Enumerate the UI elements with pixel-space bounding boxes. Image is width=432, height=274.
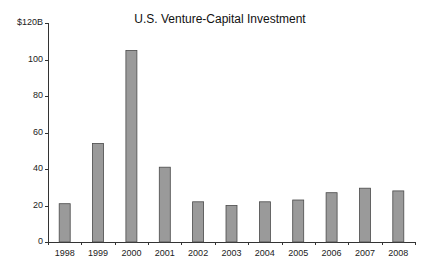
bar-2003 bbox=[226, 206, 237, 243]
bar-2000 bbox=[126, 50, 137, 242]
y-tick-label: 60 bbox=[3, 127, 43, 137]
bar-chart: U.S. Venture-Capital Investment 02040608… bbox=[0, 0, 432, 274]
x-tick-label: 2000 bbox=[114, 248, 148, 258]
y-tick-label: 20 bbox=[3, 200, 43, 210]
x-tick-label: 2008 bbox=[381, 248, 415, 258]
y-tick-label: 40 bbox=[3, 163, 43, 173]
plot-area bbox=[0, 0, 432, 274]
y-tick-label: 80 bbox=[3, 90, 43, 100]
y-tick-label: 100 bbox=[3, 54, 43, 64]
bar-2001 bbox=[159, 167, 170, 242]
bar-2006 bbox=[326, 193, 337, 242]
y-tick-label: 0 bbox=[3, 236, 43, 246]
x-tick-label: 1998 bbox=[48, 248, 82, 258]
bar-2002 bbox=[193, 202, 204, 242]
x-tick-label: 2005 bbox=[281, 248, 315, 258]
bar-2008 bbox=[393, 191, 404, 242]
x-tick-label: 2001 bbox=[148, 248, 182, 258]
x-tick-label: 2007 bbox=[348, 248, 382, 258]
bar-2005 bbox=[293, 200, 304, 242]
y-tick-label: $120B bbox=[3, 17, 43, 27]
bar-1998 bbox=[59, 204, 70, 242]
x-tick-label: 2004 bbox=[248, 248, 282, 258]
x-tick-label: 2006 bbox=[315, 248, 349, 258]
bar-2007 bbox=[360, 188, 371, 242]
bar-1999 bbox=[93, 143, 104, 242]
x-tick-label: 2002 bbox=[181, 248, 215, 258]
x-tick-label: 1999 bbox=[81, 248, 115, 258]
bar-2004 bbox=[259, 202, 270, 242]
x-tick-label: 2003 bbox=[215, 248, 249, 258]
